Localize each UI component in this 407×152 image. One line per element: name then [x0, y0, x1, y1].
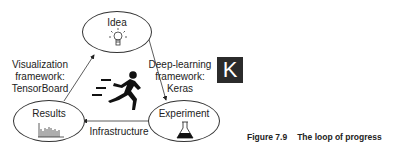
lightbulb-icon [83, 12, 153, 54]
idea-node: Idea [82, 11, 152, 53]
infrastructure-label: Infrastructure [88, 126, 150, 138]
figure-title: The loop of progress [297, 132, 382, 142]
running-person-icon [92, 71, 141, 110]
experiment-node: Experiment [148, 100, 220, 142]
bar-chart-icon [14, 101, 86, 143]
keras-logo: K [217, 57, 243, 83]
figure-caption: Figure 7.9The loop of progress [247, 132, 382, 142]
results-node: Results [13, 100, 85, 142]
figure-number: Figure 7.9 [247, 132, 287, 142]
flask-icon [149, 101, 221, 143]
deep-learning-framework-label: Deep-learning framework: Keras [146, 59, 214, 95]
visualization-framework-label: Visualization framework: TensorBoard [7, 59, 73, 95]
